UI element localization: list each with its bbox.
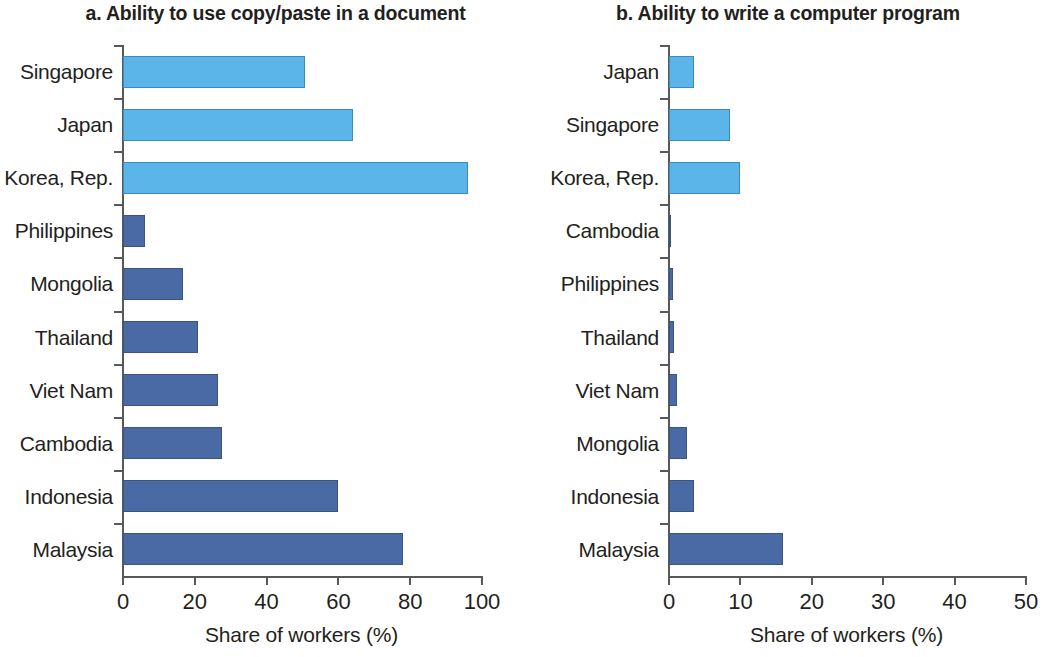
- bar-row: Singapore: [523, 98, 1045, 151]
- y-axis-tick: [660, 311, 669, 313]
- y-axis-tick: [660, 204, 669, 206]
- x-axis-tick: [337, 576, 339, 585]
- bar: [669, 215, 671, 247]
- bar-row: Mongolia: [523, 417, 1045, 470]
- y-axis-tick: [660, 417, 669, 419]
- bar: [669, 56, 694, 88]
- x-axis-tick: [882, 576, 884, 585]
- bar: [669, 268, 673, 300]
- bar: [669, 427, 687, 459]
- category-label: Japan: [0, 61, 659, 82]
- panel-a-title: a. Ability to use copy/paste in a docume…: [0, 2, 537, 25]
- y-axis-tick: [114, 151, 123, 153]
- panel-b-title: b. Ability to write a computer program: [523, 2, 1045, 25]
- y-axis-tick: [114, 470, 123, 472]
- category-label: Korea, Rep.: [0, 167, 659, 188]
- bar: [669, 374, 677, 406]
- x-axis-tick-label: 0: [663, 589, 675, 615]
- bar-row: Korea, Rep.: [523, 151, 1045, 204]
- x-axis-line: [668, 576, 1027, 578]
- x-axis-tick: [954, 576, 956, 585]
- x-axis-tick-label: 40: [942, 589, 966, 615]
- two-panel-bar-chart-figure: a. Ability to use copy/paste in a docume…: [0, 0, 1045, 657]
- chart-panel-b: b. Ability to write a computer program J…: [523, 0, 1045, 657]
- category-label: Philippines: [0, 273, 659, 294]
- x-axis-tick-label: 20: [183, 589, 207, 615]
- bar: [669, 162, 740, 194]
- y-axis-tick: [114, 311, 123, 313]
- x-axis-tick-label: 60: [326, 589, 350, 615]
- x-axis-tick-label: 20: [800, 589, 824, 615]
- bar: [669, 321, 674, 353]
- y-axis-tick: [660, 470, 669, 472]
- category-label: Malaysia: [0, 539, 659, 560]
- x-axis-tick: [811, 576, 813, 585]
- bar-rows: JapanSingaporeKorea, Rep.CambodiaPhilipp…: [523, 45, 1045, 579]
- panel-b-plot-area: JapanSingaporeKorea, Rep.CambodiaPhilipp…: [523, 45, 1045, 579]
- x-axis-tick: [266, 576, 268, 585]
- bar: [669, 109, 730, 141]
- y-axis-tick: [114, 417, 123, 419]
- y-axis-tick: [114, 523, 123, 525]
- x-axis-tick: [739, 576, 741, 585]
- x-axis-title: Share of workers (%): [608, 623, 1045, 647]
- category-label: Singapore: [0, 114, 659, 135]
- bar-row: Malaysia: [523, 523, 1045, 576]
- x-axis-tick: [409, 576, 411, 585]
- y-axis-tick: [660, 523, 669, 525]
- x-axis-tick-label: 100: [464, 589, 501, 615]
- bar-row: Philippines: [523, 257, 1045, 310]
- x-axis-tick: [668, 576, 670, 585]
- x-axis-tick-label: 0: [117, 589, 129, 615]
- x-axis-tick-label: 50: [1014, 589, 1038, 615]
- x-axis-tick: [194, 576, 196, 585]
- bar: [669, 480, 694, 512]
- x-axis-tick-label: 80: [398, 589, 422, 615]
- x-axis-tick: [1025, 576, 1027, 585]
- y-axis-tick: [660, 151, 669, 153]
- y-axis-tick: [114, 45, 123, 47]
- category-label: Thailand: [0, 327, 659, 348]
- category-label: Mongolia: [0, 433, 659, 454]
- category-label: Viet Nam: [0, 380, 659, 401]
- bar-row: Viet Nam: [523, 364, 1045, 417]
- x-axis-tick: [122, 576, 124, 585]
- category-label: Indonesia: [0, 486, 659, 507]
- x-axis-tick: [481, 576, 483, 585]
- bar-row: Japan: [523, 45, 1045, 98]
- bar-row: Indonesia: [523, 470, 1045, 523]
- x-axis-line: [122, 576, 483, 578]
- y-axis-tick: [114, 204, 123, 206]
- y-axis-tick: [660, 45, 669, 47]
- category-label: Cambodia: [0, 220, 659, 241]
- x-axis-tick-label: 40: [254, 589, 278, 615]
- x-axis-tick-label: 30: [871, 589, 895, 615]
- y-axis-tick: [660, 364, 669, 366]
- y-axis-tick: [660, 98, 669, 100]
- y-axis-tick: [660, 257, 669, 259]
- bar: [669, 533, 783, 565]
- y-axis-tick: [114, 257, 123, 259]
- y-axis-tick: [114, 364, 123, 366]
- x-axis-tick-label: 10: [728, 589, 752, 615]
- y-axis-tick: [114, 98, 123, 100]
- bar-row: Cambodia: [523, 204, 1045, 257]
- x-axis-title: Share of workers (%): [62, 623, 541, 647]
- bar-row: Thailand: [523, 311, 1045, 364]
